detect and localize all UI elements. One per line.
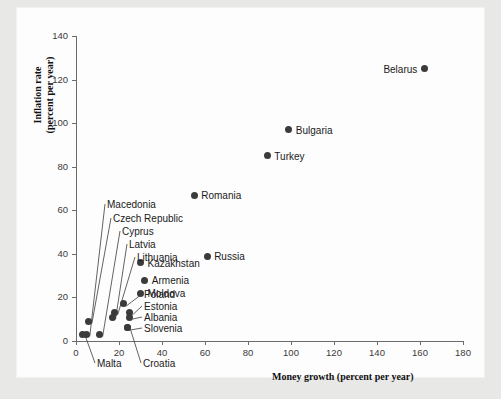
y-tick	[72, 80, 77, 81]
x-tick-label: 80	[236, 347, 260, 358]
leader-line-estonia	[133, 306, 142, 315]
x-tick-label: 0	[64, 347, 88, 358]
y-tick-label: 40	[34, 248, 68, 259]
x-tick-label: 100	[279, 347, 303, 358]
point-label-macedonia: Macedonia	[107, 199, 156, 210]
x-tick-label: 120	[322, 347, 346, 358]
y-tick	[72, 36, 77, 37]
data-point-czech-republic	[85, 318, 92, 325]
point-label-turkey: Turkey	[274, 150, 304, 161]
x-tick	[420, 341, 421, 345]
point-label-russia: Russia	[214, 251, 245, 262]
y-tick	[72, 210, 77, 211]
y-tick	[72, 297, 77, 298]
scatter-plot: Inflation rate (percent per year) Money …	[0, 0, 501, 399]
point-label-latvia: Latvia	[129, 239, 156, 250]
leader-line-croatia	[131, 330, 141, 363]
leader-line-cyprus	[103, 231, 120, 336]
data-point-turkey	[264, 152, 271, 159]
x-axis-title: Money growth (percent per year)	[272, 371, 414, 383]
x-tick	[334, 341, 335, 345]
data-point-bulgaria	[285, 126, 292, 133]
y-axis-title: Inflation rate (percent per year)	[32, 30, 56, 160]
point-label-cyprus: Cyprus	[122, 226, 154, 237]
y-tick-label: 100	[34, 117, 68, 128]
data-point-latvia	[109, 314, 116, 321]
y-tick-label: 140	[34, 30, 68, 41]
data-point-cyprus	[96, 331, 103, 338]
point-label-slovenia: Slovenia	[144, 323, 182, 334]
data-point-poland	[120, 300, 127, 307]
x-tick-label: 20	[107, 347, 131, 358]
y-tick-label: 120	[34, 74, 68, 85]
point-label-bulgaria: Bulgaria	[296, 124, 333, 135]
x-tick	[463, 341, 464, 345]
point-label-poland: Poland	[144, 289, 175, 300]
data-point-belarus	[421, 65, 428, 72]
x-tick-label: 160	[408, 347, 432, 358]
y-tick	[72, 123, 77, 124]
data-point-malta	[79, 331, 86, 338]
y-tick-label: 60	[34, 204, 68, 215]
x-tick-label: 140	[365, 347, 389, 358]
leader-line-latvia	[116, 244, 127, 319]
leader-line-slovenia	[131, 328, 142, 330]
point-label-lithuania: Lithuania	[137, 252, 178, 263]
x-tick-label: 180	[451, 347, 475, 358]
y-tick	[72, 341, 77, 342]
y-tick-label: 20	[34, 291, 68, 302]
x-tick	[248, 341, 249, 345]
leader-line-macedonia	[90, 204, 105, 336]
point-label-czech-republic: Czech Republic	[113, 213, 183, 224]
data-point-croatia	[124, 324, 131, 331]
x-tick-label: 40	[150, 347, 174, 358]
x-tick	[119, 341, 120, 345]
point-label-estonia: Estonia	[144, 301, 177, 312]
y-tick	[72, 254, 77, 255]
x-tick	[377, 341, 378, 345]
x-tick	[162, 341, 163, 345]
x-tick-label: 60	[193, 347, 217, 358]
point-label-belarus: Belarus	[383, 63, 417, 74]
y-tick-label: 80	[34, 161, 68, 172]
point-label-albania: Albania	[144, 312, 177, 323]
point-label-croatia: Croatia	[143, 358, 175, 369]
x-tick	[291, 341, 292, 345]
point-label-malta: Malta	[97, 358, 121, 369]
point-label-romania: Romania	[201, 190, 241, 201]
data-point-moldova	[137, 290, 144, 297]
leader-line-albania	[133, 317, 142, 319]
data-point-romania	[191, 192, 198, 199]
y-tick	[72, 167, 77, 168]
data-point-armenia	[141, 277, 148, 284]
point-label-armenia: Armenia	[152, 275, 189, 286]
x-axis-line	[76, 341, 464, 342]
y-axis-line	[76, 36, 77, 342]
data-point-albania	[126, 314, 133, 321]
data-point-russia	[204, 253, 211, 260]
leader-line-czech-republic	[92, 218, 111, 323]
x-tick	[205, 341, 206, 345]
y-tick-label: 0	[34, 335, 68, 346]
